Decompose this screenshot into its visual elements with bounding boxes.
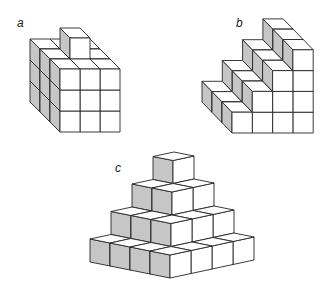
figure-label-c: c <box>115 162 121 174</box>
figure-b <box>202 19 313 133</box>
figure-a <box>30 28 120 132</box>
figure-label-a: a <box>17 17 24 29</box>
cube-drawing-canvas <box>0 0 332 290</box>
cube-figures-diagram: a b c <box>0 0 332 290</box>
figure-label-b: b <box>236 17 243 29</box>
